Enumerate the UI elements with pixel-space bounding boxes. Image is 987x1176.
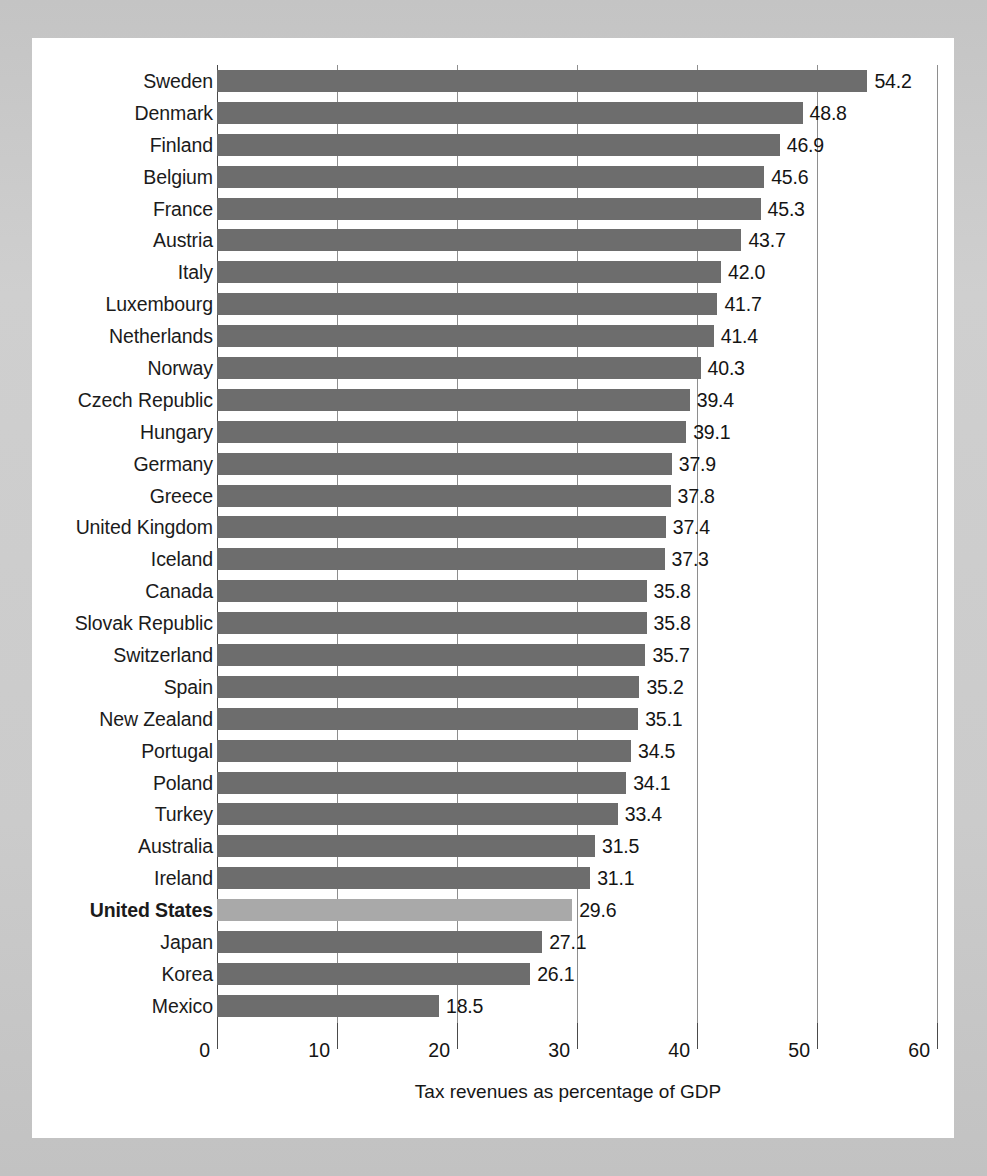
bar-value-label: 45.3: [768, 197, 805, 220]
bar-row: Mexico18.5: [32, 990, 954, 1022]
bar-track: 31.5: [217, 830, 954, 862]
bar: [217, 421, 686, 443]
bar-value-label: 42.0: [728, 261, 765, 284]
bar-row: Denmark48.8: [32, 97, 954, 129]
bar: [217, 261, 721, 283]
bar-track: 34.5: [217, 735, 954, 767]
bar-value-label: 39.4: [697, 388, 734, 411]
bar-row: Finland46.9: [32, 129, 954, 161]
bar-category-label: Luxembourg: [106, 293, 213, 316]
x-tick-20: [457, 1023, 458, 1049]
bar-value-label: 29.6: [579, 899, 616, 922]
bar-row: Switzerland35.7: [32, 639, 954, 671]
figure-panel: Sweden54.2Denmark48.8Finland46.9Belgium4…: [32, 38, 954, 1138]
bar-value-label: 41.7: [724, 293, 761, 316]
bar-track: 35.8: [217, 607, 954, 639]
bar-row: Germany37.9: [32, 448, 954, 480]
bar-category-label: Norway: [148, 356, 214, 379]
x-tick-label: 20: [428, 1039, 457, 1062]
bar-value-label: 31.5: [602, 835, 639, 858]
bar-category-label: Mexico: [152, 994, 213, 1017]
bar-track: 33.4: [217, 798, 954, 830]
bar-category-label: Switzerland: [113, 643, 213, 666]
bar-row: Greece37.8: [32, 480, 954, 512]
bar-track: 39.4: [217, 384, 954, 416]
bar-track: 35.7: [217, 639, 954, 671]
bar-row: Canada35.8: [32, 575, 954, 607]
bar: [217, 70, 867, 92]
x-tick-0: [217, 1023, 218, 1049]
bar-track: 35.8: [217, 575, 954, 607]
bar-track: 43.7: [217, 224, 954, 256]
x-tick-label: 50: [788, 1039, 817, 1062]
bar-row: Luxembourg41.7: [32, 288, 954, 320]
bar: [217, 931, 542, 953]
bar: [217, 708, 638, 730]
bar: [217, 325, 714, 347]
bar: [217, 835, 595, 857]
bar-row: Korea26.1: [32, 958, 954, 990]
bar: [217, 612, 647, 634]
bar-value-label: 40.3: [708, 356, 745, 379]
bar-track: 39.1: [217, 416, 954, 448]
bar-track: 41.7: [217, 288, 954, 320]
bar: [217, 580, 647, 602]
bar-value-label: 37.3: [672, 548, 709, 571]
bar-row: Norway40.3: [32, 352, 954, 384]
bar-value-label: 35.7: [652, 643, 689, 666]
bar: [217, 198, 761, 220]
bar-row: Spain35.2: [32, 671, 954, 703]
x-tick-50: [817, 1023, 818, 1049]
bar-track: 45.3: [217, 193, 954, 225]
bar: [217, 102, 803, 124]
bar-track: 48.8: [217, 97, 954, 129]
bar-value-label: 26.1: [537, 962, 574, 985]
bar: [217, 166, 764, 188]
bar-category-label: Netherlands: [109, 325, 213, 348]
bar-category-label: Sweden: [143, 69, 213, 92]
bar: [217, 453, 672, 475]
bar-row: Czech Republic39.4: [32, 384, 954, 416]
bar-track: 40.3: [217, 352, 954, 384]
bar: [217, 803, 618, 825]
bar-category-label: Belgium: [143, 165, 213, 188]
bar-row: Japan27.1: [32, 926, 954, 958]
bar-value-label: 35.1: [645, 707, 682, 730]
bar-track: 35.1: [217, 703, 954, 735]
bar: [217, 867, 590, 889]
bar-value-label: 39.1: [693, 420, 730, 443]
bar-row: Hungary39.1: [32, 416, 954, 448]
x-tick-label: 60: [908, 1039, 937, 1062]
bar-category-label: Denmark: [135, 101, 213, 124]
x-tick-label: 40: [668, 1039, 697, 1062]
bar-track: 41.4: [217, 320, 954, 352]
bar-category-label: United Kingdom: [76, 516, 213, 539]
bar-category-label: New Zealand: [99, 707, 213, 730]
bar-row: Ireland31.1: [32, 862, 954, 894]
bar-track: 45.6: [217, 161, 954, 193]
bar-row: Portugal34.5: [32, 735, 954, 767]
bar: [217, 772, 626, 794]
bar: [217, 644, 645, 666]
bar-row: Austria43.7: [32, 224, 954, 256]
bar: [217, 548, 665, 570]
bar-category-label: United States: [90, 899, 213, 922]
bar-row: Netherlands41.4: [32, 320, 954, 352]
bar: [217, 516, 666, 538]
bar: [217, 485, 671, 507]
bar-category-label: Spain: [164, 675, 213, 698]
bar: [217, 899, 572, 921]
bar-value-label: 34.5: [638, 739, 675, 762]
bar-category-label: France: [153, 197, 213, 220]
bar-value-label: 41.4: [721, 325, 758, 348]
bar-value-label: 37.8: [678, 484, 715, 507]
bar-row: Belgium45.6: [32, 161, 954, 193]
bar-value-label: 37.4: [673, 516, 710, 539]
bar-value-label: 34.1: [633, 771, 670, 794]
bar-row: New Zealand35.1: [32, 703, 954, 735]
bar: [217, 963, 530, 985]
bar-value-label: 43.7: [748, 229, 785, 252]
bar-track: 46.9: [217, 129, 954, 161]
bar: [217, 229, 741, 251]
bar-category-label: Turkey: [155, 803, 213, 826]
